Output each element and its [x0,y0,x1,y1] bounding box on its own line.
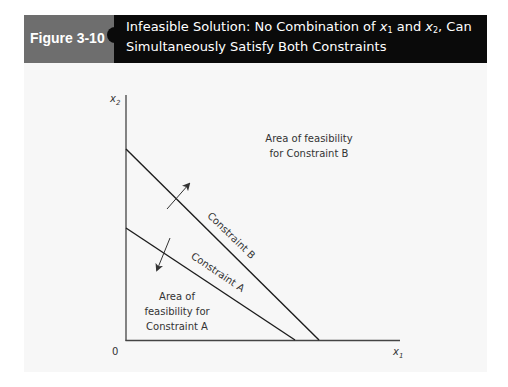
y-axis-label: x2 [109,93,121,107]
constraint-a-label: Constraint A [189,250,247,294]
infeasible-diagram: x2 0 x1 Constraint B Constraint A Area o… [0,0,508,387]
x-axis-label: x1 [392,346,403,360]
constraint-a-direction-arrow [157,238,170,270]
area-b-label-line2: for Constraint B [270,148,349,159]
constraint-b-direction-arrow [167,184,189,209]
area-a-label-line2: feasibility for [144,306,210,317]
origin-label: 0 [112,346,118,357]
area-a-label-line3: Constraint A [146,321,208,332]
area-a-label-line1: Area of [159,291,195,302]
area-b-label-line1: Area of feasibility [265,133,352,144]
